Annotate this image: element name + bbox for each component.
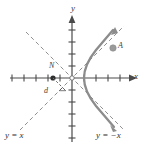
point-N-label: N [49,62,54,70]
asymptote-y-equals-x-label: y = x [5,131,24,140]
distance-segment-d [53,78,63,88]
asymptote-y-equals-negative-x [26,32,124,130]
point-A [110,45,116,51]
x-axis-label: x [134,72,138,81]
hyperbola-curve [84,27,118,132]
hyperbola-figure: y x A N d y = x y = −x [0,0,147,153]
y-axis-label: y [71,4,75,13]
origin-marker [70,76,74,80]
distance-d-label: d [44,87,48,95]
point-A-label: A [118,42,123,50]
asymptote-y-equals-negative-x-label: y = −x [96,131,121,140]
